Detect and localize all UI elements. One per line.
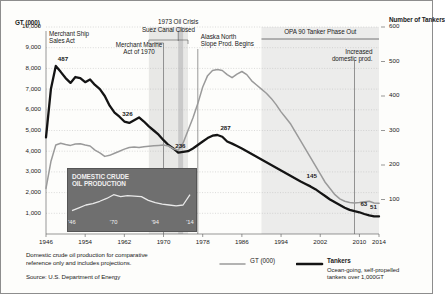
y2-tick-label: 400	[389, 92, 415, 99]
data-label-326: 326	[122, 111, 132, 118]
data-label-51: 51	[370, 204, 377, 211]
legend-gt-label: GT (000)	[250, 258, 275, 265]
x-tick-label: 1962	[108, 239, 140, 246]
legend-swatch-legend-gt	[219, 259, 247, 269]
inset-x-tick-label: '46	[64, 219, 80, 225]
data-label-487: 487	[58, 56, 68, 63]
footnote-note: Domestic crude oil production for compar…	[26, 251, 226, 267]
y2-tick-label: 100	[389, 196, 415, 203]
y2-tick-label: 300	[389, 127, 415, 134]
y-tick-label: 6,000	[7, 106, 41, 113]
y-tick-label: 1,000	[7, 210, 41, 217]
legend-tankers-sublabel: Ocean-going, self-propelledtankers over …	[327, 267, 427, 281]
y-tick-label: 8,000	[7, 65, 41, 72]
footnote-source: Source: U.S. Department of Energy	[26, 273, 226, 281]
x-tick-label: 1986	[226, 239, 258, 246]
inset-title: DOMESTIC CRUDEOIL PRODUCTION	[72, 173, 129, 187]
data-label-236: 236	[175, 143, 185, 150]
inset-x-tick-label: '14	[182, 219, 198, 225]
x-tick-label: 1954	[69, 239, 101, 246]
x-tick-label: 2014	[363, 239, 395, 246]
x-tick-label: 1978	[187, 239, 219, 246]
legend-swatch-legend-tankers	[296, 259, 324, 269]
data-label-145: 145	[307, 173, 317, 180]
y-tick-label: 3,000	[7, 168, 41, 175]
annotation-alaska-north-slope: Alaska NorthSlope Prod. Begins	[201, 34, 267, 48]
y-tick-label: 10,000	[7, 23, 41, 30]
annotation-merchant-marine-act: Merchant MarineAct of 1970	[108, 42, 170, 56]
annotation-suez-canal-closed: Suez Canal Closed	[128, 27, 208, 34]
y2-tick-label: 600	[389, 23, 415, 30]
y-tick-label: 5,000	[7, 127, 41, 134]
y2-tick-label: 500	[389, 58, 415, 65]
x-tick-label: 1994	[265, 239, 297, 246]
y-tick-label: 4,000	[7, 148, 41, 155]
x-tick-label: 1970	[148, 239, 180, 246]
y-tick-label: 7,000	[7, 86, 41, 93]
annotation-opa-90-phase-out: OPA 90 Tanker Phase Out	[261, 29, 379, 36]
inset-x-tick-label: '94	[147, 219, 163, 225]
annotation-increased-domestic-prod: Increaseddomestic prod.	[311, 49, 373, 63]
x-tick-label: 2002	[304, 239, 336, 246]
inset-x-tick-label: '70	[106, 219, 122, 225]
y-tick-label: 2,000	[7, 189, 41, 196]
y-tick-label: 9,000	[7, 44, 41, 51]
y2-tick-label: 200	[389, 161, 415, 168]
inset-series-line	[72, 195, 190, 211]
x-tick-label: 1946	[30, 239, 62, 246]
annotation-oil-crisis: 1973 Oil Crisis	[148, 19, 208, 26]
legend-tankers-label: Tankers	[327, 258, 351, 265]
data-label-287: 287	[220, 125, 230, 132]
data-label-63: 63	[360, 201, 367, 208]
